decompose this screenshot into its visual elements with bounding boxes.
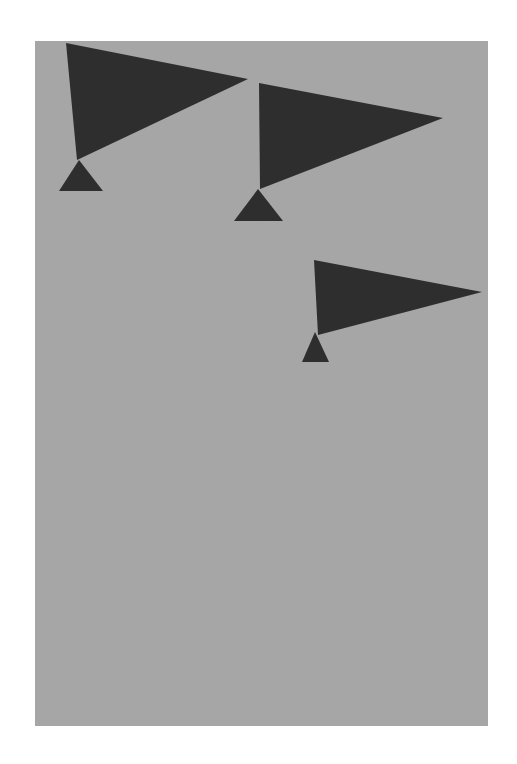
pennant-artwork [0,0,517,764]
